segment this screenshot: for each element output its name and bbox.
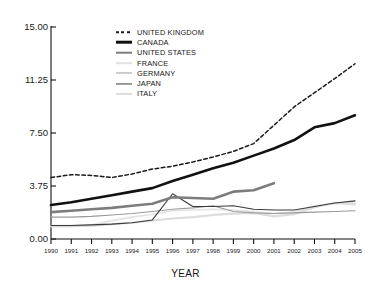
legend-label: GERMANY xyxy=(137,69,175,78)
x-tick-label: 1997 xyxy=(182,248,204,254)
x-tick-label: 2000 xyxy=(243,248,265,254)
legend-swatch-icon xyxy=(116,68,132,78)
x-tick-label: 1995 xyxy=(141,248,163,254)
legend-item[interactable]: ITALY xyxy=(116,89,204,99)
x-axis-title: YEAR xyxy=(0,268,371,279)
x-tick-label: 2001 xyxy=(263,248,285,254)
x-tick-label: 2005 xyxy=(344,248,366,254)
x-tick-label: 1992 xyxy=(81,248,103,254)
legend-swatch-icon xyxy=(116,27,132,37)
chart-legend: UNITED KINGDOMCANADAUNITED STATESFRANCEG… xyxy=(116,27,204,99)
legend-label: UNITED KINGDOM xyxy=(137,28,204,37)
legend-item[interactable]: UNITED KINGDOM xyxy=(116,27,204,37)
legend-item[interactable]: CANADA xyxy=(116,37,204,47)
x-tick-label: 1993 xyxy=(101,248,123,254)
legend-swatch-icon xyxy=(116,58,132,68)
x-tick-label: 1996 xyxy=(162,248,184,254)
x-tick-label: 2002 xyxy=(283,248,305,254)
legend-item[interactable]: JAPAN xyxy=(116,78,204,88)
x-tick-label: 2004 xyxy=(324,248,346,254)
legend-item[interactable]: FRANCE xyxy=(116,58,204,68)
legend-swatch-icon xyxy=(116,48,132,58)
x-tick-label: 1990 xyxy=(40,248,62,254)
x-tick-label: 1991 xyxy=(60,248,82,254)
x-tick-label: 2003 xyxy=(303,248,325,254)
line-chart: 0.003.757.5011.2515.00 19901991199219931… xyxy=(0,0,371,290)
legend-label: UNITED STATES xyxy=(137,48,196,57)
legend-item[interactable]: GERMANY xyxy=(116,68,204,78)
legend-label: ITALY xyxy=(137,89,157,98)
legend-label: CANADA xyxy=(137,38,169,47)
legend-label: JAPAN xyxy=(137,79,161,88)
legend-label: FRANCE xyxy=(137,59,168,68)
x-tick-label: 1994 xyxy=(121,248,143,254)
legend-swatch-icon xyxy=(116,37,132,47)
x-tick-label: 1999 xyxy=(222,248,244,254)
legend-item[interactable]: UNITED STATES xyxy=(116,48,204,58)
x-tick-label: 1998 xyxy=(202,248,224,254)
legend-swatch-icon xyxy=(116,79,132,89)
legend-swatch-icon xyxy=(116,89,132,99)
